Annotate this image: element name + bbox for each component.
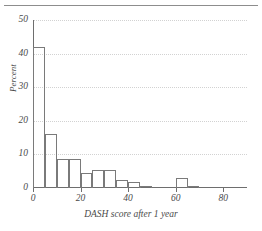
y-tick-label-10: 10 bbox=[6, 149, 28, 159]
x-tick-80 bbox=[223, 188, 224, 192]
plot-area bbox=[33, 20, 247, 188]
x-tick-label-20: 20 bbox=[69, 194, 93, 204]
x-tick-label-40: 40 bbox=[116, 194, 140, 204]
bar bbox=[116, 180, 128, 188]
bar bbox=[104, 170, 116, 188]
bar bbox=[33, 47, 45, 188]
gridline-y-10 bbox=[33, 154, 247, 156]
bar bbox=[69, 159, 81, 188]
x-tick-label-0: 0 bbox=[21, 194, 45, 204]
bar bbox=[45, 134, 57, 188]
x-tick-label-80: 80 bbox=[211, 194, 235, 204]
histogram-figure: Percent 01020304050 020406080 DASH score… bbox=[0, 0, 262, 231]
bar bbox=[140, 186, 152, 188]
gridline-y-50 bbox=[33, 20, 247, 22]
bar bbox=[188, 186, 200, 188]
y-tick-label-30: 30 bbox=[6, 82, 28, 92]
x-tick-20 bbox=[81, 188, 82, 192]
x-tick-40 bbox=[128, 188, 129, 192]
y-tick-label-20: 20 bbox=[6, 116, 28, 126]
bar bbox=[176, 178, 188, 188]
top-horizontal-rule bbox=[4, 5, 258, 6]
bar bbox=[57, 159, 69, 188]
x-tick-0 bbox=[33, 188, 34, 192]
gridline-y-20 bbox=[33, 121, 247, 123]
bar bbox=[81, 173, 93, 188]
gridline-y-30 bbox=[33, 87, 247, 89]
y-tick-label-50: 50 bbox=[6, 15, 28, 25]
x-tick-label-60: 60 bbox=[164, 194, 188, 204]
x-axis-title: DASH score after 1 year bbox=[0, 209, 262, 219]
x-tick-60 bbox=[176, 188, 177, 192]
bar bbox=[128, 182, 140, 188]
y-tick-label-40: 40 bbox=[6, 49, 28, 59]
gridline-y-40 bbox=[33, 54, 247, 56]
bar bbox=[92, 170, 104, 188]
y-tick-label-0: 0 bbox=[6, 183, 28, 193]
